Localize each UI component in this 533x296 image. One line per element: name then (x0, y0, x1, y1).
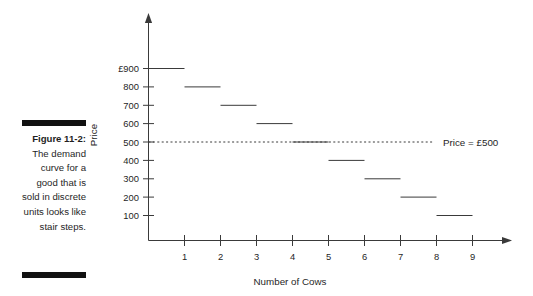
y-axis-arrow-icon (145, 13, 152, 23)
chart-axes (145, 13, 512, 244)
y-axis-tick-labels: £900 800 700 600 500 400 300 200 100 (118, 63, 139, 221)
y-tick-label-600: 600 (123, 118, 139, 129)
x-tick-label-4: 4 (290, 251, 295, 262)
y-tick-label-700: 700 (123, 100, 139, 111)
y-axis-title: Price (88, 123, 99, 146)
y-tick-label-900: £900 (118, 63, 139, 74)
price-500-annotation-label: Price = £500 (443, 137, 499, 148)
x-tick-label-3: 3 (254, 251, 259, 262)
x-tick-label-7: 7 (398, 251, 403, 262)
y-tick-label-400: 400 (123, 155, 139, 166)
y-tick-label-100: 100 (123, 210, 139, 221)
x-tick-label-1: 1 (182, 251, 187, 262)
x-axis-title: Number of Cows (254, 276, 327, 287)
x-tick-label-2: 2 (218, 251, 223, 262)
y-tick-label-300: 300 (123, 173, 139, 184)
y-tick-label-800: 800 (123, 81, 139, 92)
x-tick-label-8: 8 (434, 251, 439, 262)
y-tick-label-500: 500 (123, 137, 139, 148)
x-tick-label-9: 9 (470, 251, 475, 262)
x-tick-label-5: 5 (326, 251, 331, 262)
x-axis-tick-labels: 1 2 3 4 5 6 7 8 9 (182, 251, 475, 262)
demand-curve-chart: £900 800 700 600 500 400 300 200 100 1 2 (0, 0, 533, 296)
y-tick-label-200: 200 (123, 192, 139, 203)
x-tick-label-6: 6 (362, 251, 367, 262)
x-axis-arrow-icon (502, 237, 512, 244)
